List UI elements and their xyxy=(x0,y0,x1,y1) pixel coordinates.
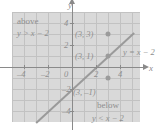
region-inequality-below: y < x − 2 xyxy=(92,114,124,123)
y-tick-label-neg4: –4 xyxy=(62,107,71,116)
gridline-horizontal xyxy=(12,100,140,101)
y-tick xyxy=(70,45,74,46)
gridline-horizontal xyxy=(12,12,140,13)
y-tick-label-pos4: 4 xyxy=(64,19,68,28)
data-point-3-1 xyxy=(106,54,111,59)
x-axis-label: x xyxy=(149,64,153,73)
point-label-3-1: (3, 1) xyxy=(75,52,93,61)
x-tick-label-pos4: 4 xyxy=(118,70,122,79)
x-tick-label-neg2: –2 xyxy=(41,70,50,79)
gridline-horizontal xyxy=(12,111,140,112)
data-point-3-3 xyxy=(106,32,111,37)
region-label-below: below xyxy=(97,101,119,110)
region-inequality-above: y > x − 2 xyxy=(17,29,49,38)
x-tick-label-zero: 0 xyxy=(64,70,68,79)
y-tick xyxy=(70,23,74,24)
data-point-3-n1 xyxy=(106,76,111,81)
function-label: y = x − 2 xyxy=(123,48,155,57)
y-tick-label-neg2: –2 xyxy=(62,85,71,94)
point-label-3-3: (3, 3) xyxy=(75,30,93,39)
y-axis-label: y xyxy=(68,1,72,10)
region-label-above: above xyxy=(17,17,39,26)
y-tick-label-pos2: 2 xyxy=(64,41,68,50)
x-tick-label-neg4: –4 xyxy=(17,70,26,79)
x-tick-label-pos2: 2 xyxy=(94,70,98,79)
point-label-3-neg1: (3, –1) xyxy=(73,88,96,97)
coordinate-graph-figure: y x –4 –2 0 2 4 4 2 –2 –4 (3, 3) (3, 1) … xyxy=(0,0,166,132)
